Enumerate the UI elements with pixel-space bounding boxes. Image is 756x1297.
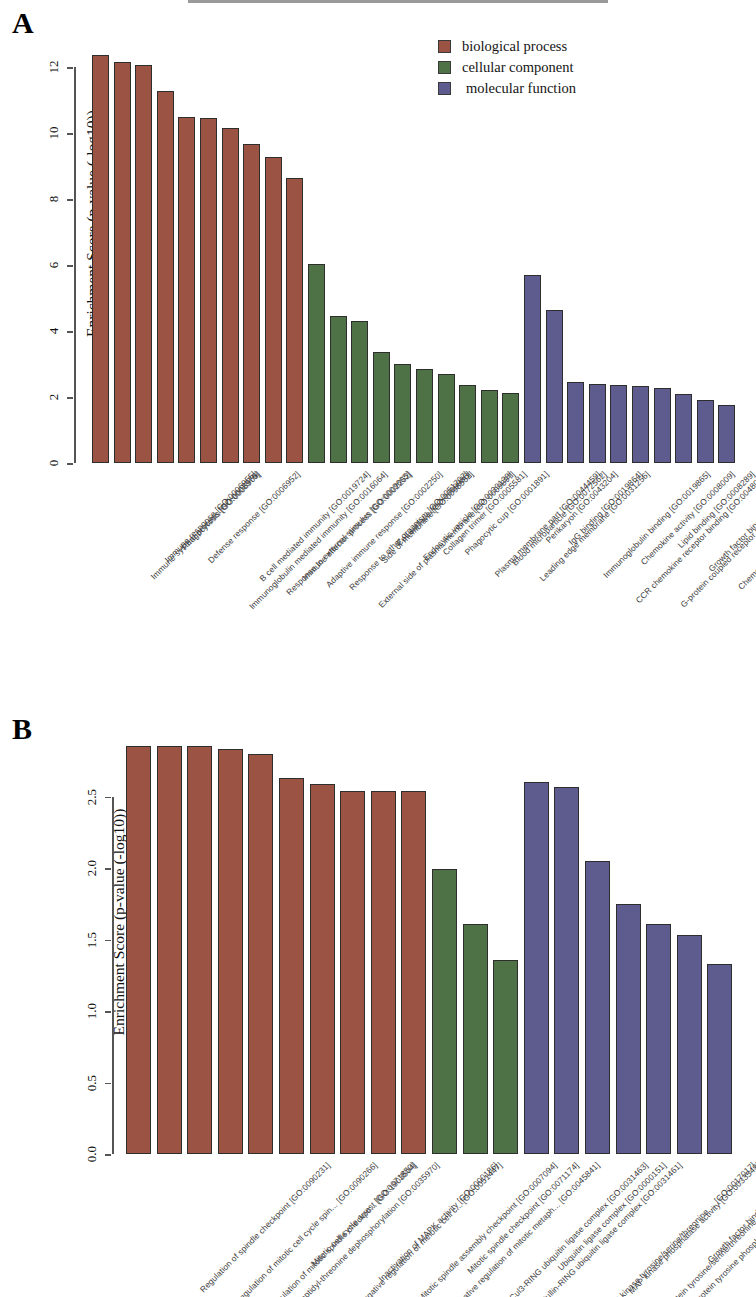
- bar: [589, 384, 606, 463]
- x-axis-label: Phagocytosis [GO:0006909]: [179, 469, 262, 552]
- bar: [92, 55, 109, 463]
- y-tick: [67, 463, 73, 465]
- bar: [481, 390, 498, 463]
- bar: [524, 275, 541, 463]
- bar: [632, 386, 649, 463]
- bar: [493, 960, 518, 1154]
- panel-a-plot-area: Enrichment Score (p-value (-log10)) 0246…: [74, 18, 750, 476]
- y-tick: [67, 199, 73, 201]
- y-tick: [67, 67, 73, 69]
- bar: [585, 861, 610, 1154]
- panel-b-bars: [112, 718, 742, 1171]
- bar: [438, 374, 455, 463]
- bar: [554, 787, 579, 1155]
- legend-swatch-bp: [438, 40, 451, 53]
- y-tick-label: 1.5: [84, 920, 100, 960]
- y-tick-label: 0.0: [84, 1134, 100, 1174]
- bar: [502, 393, 519, 463]
- bar: [286, 178, 303, 463]
- bar: [567, 382, 584, 464]
- bar: [546, 310, 563, 463]
- panel-a-legend-item-mf: molecular function: [438, 78, 576, 99]
- panel-b-plot-area: Enrichment Score (p-value (-log10)) 0.00…: [112, 718, 742, 1171]
- y-tick-label: 2.5: [84, 777, 100, 817]
- x-axis-label: Ubiquitin ligase complex [GO:0000151]: [555, 1160, 667, 1272]
- panel-a-letter: A: [12, 6, 34, 40]
- bar: [243, 144, 260, 463]
- y-tick: [67, 331, 73, 333]
- bar: [248, 754, 273, 1154]
- bar: [178, 117, 195, 464]
- legend-label-mf: molecular function: [462, 80, 576, 97]
- x-axis-label: Adaptive immune response [GO:0002250]: [324, 469, 444, 589]
- bar: [157, 91, 174, 463]
- y-tick: [105, 940, 111, 942]
- bar: [135, 65, 152, 463]
- y-tick-label: 6: [46, 245, 62, 285]
- bar: [218, 749, 243, 1154]
- bar: [524, 782, 549, 1154]
- bar: [373, 352, 390, 463]
- bar: [675, 394, 692, 463]
- legend-swatch-mf: [438, 82, 451, 95]
- bar: [157, 746, 182, 1154]
- y-tick-label: 2: [46, 377, 62, 417]
- y-tick-label: 0: [46, 443, 62, 483]
- bar: [126, 746, 151, 1154]
- legend-label-bp: biological process: [462, 38, 567, 55]
- bar: [401, 791, 426, 1154]
- y-tick: [105, 1154, 111, 1156]
- y-tick-label: 0.5: [84, 1063, 100, 1103]
- bar: [351, 321, 368, 463]
- y-tick-label: 1.0: [84, 991, 100, 1031]
- bar: [371, 791, 396, 1154]
- panel-a-legend-item-bp: biological process: [438, 36, 576, 57]
- panel-a-legend: biological processcellular componentmole…: [438, 36, 576, 99]
- bar: [616, 904, 641, 1154]
- panel-a-legend-item-cc: cellular component: [438, 57, 576, 78]
- bar: [114, 62, 131, 463]
- y-tick: [105, 1083, 111, 1085]
- bar: [310, 784, 335, 1154]
- bar: [394, 364, 411, 463]
- bar: [646, 924, 671, 1154]
- bar: [654, 388, 671, 463]
- bar: [340, 791, 365, 1154]
- bar: [718, 405, 735, 463]
- bar: [707, 964, 732, 1154]
- y-tick-label: 2.0: [84, 848, 100, 888]
- bar: [610, 385, 627, 463]
- panel-a-bars: [74, 18, 750, 476]
- bar: [677, 935, 702, 1154]
- y-tick-label: 10: [46, 113, 62, 153]
- bar: [416, 369, 433, 463]
- bar: [200, 118, 217, 463]
- panel-a: A Enrichment Score (p-value (-log10)) 02…: [0, 0, 756, 650]
- y-tick: [67, 265, 73, 267]
- y-tick-label: 8: [46, 179, 62, 219]
- bar: [222, 128, 239, 463]
- y-tick: [67, 133, 73, 135]
- bar: [187, 746, 212, 1154]
- bar: [459, 385, 476, 463]
- legend-label-cc: cellular component: [462, 59, 574, 76]
- y-tick: [105, 1011, 111, 1013]
- bar: [308, 264, 325, 463]
- y-tick: [105, 797, 111, 799]
- bar: [697, 400, 714, 463]
- panel-b: B Enrichment Score (p-value (-log10)) 0.…: [0, 650, 756, 1297]
- bar: [432, 869, 457, 1154]
- bar: [463, 924, 488, 1154]
- legend-swatch-cc: [438, 61, 451, 74]
- bar: [279, 778, 304, 1154]
- bar: [265, 157, 282, 463]
- y-tick-label: 4: [46, 311, 62, 351]
- y-tick: [67, 397, 73, 399]
- y-tick-label: 12: [46, 47, 62, 87]
- y-tick: [105, 868, 111, 870]
- panel-b-letter: B: [12, 712, 32, 746]
- bar: [330, 316, 347, 464]
